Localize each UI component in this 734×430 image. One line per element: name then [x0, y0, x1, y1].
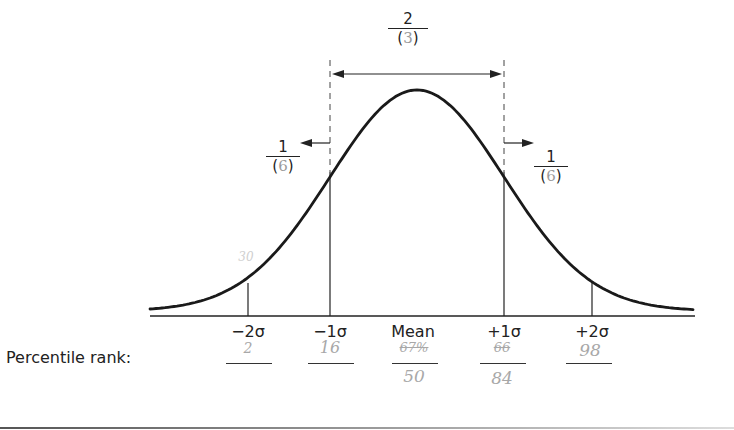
- percentile-blank-minus-1-sigma[interactable]: [308, 363, 354, 364]
- left-tail-fraction: 1 (6): [266, 138, 300, 175]
- percentile-blank-plus-2-sigma[interactable]: [566, 363, 612, 364]
- tick-label-minus-2-sigma: −2σ: [231, 322, 265, 341]
- tick-label-plus-1-sigma: +1σ: [487, 322, 521, 341]
- paren-close: ): [288, 157, 294, 175]
- percentile-answer-mean: 50: [403, 366, 425, 386]
- center-area-fraction: 2 (3): [388, 10, 428, 47]
- paren-close: ): [413, 29, 419, 47]
- handwritten-curve-note: 30: [238, 250, 253, 264]
- percentile-crossed-answer-mean: 67%: [400, 340, 429, 355]
- right-fraction-numerator: 1: [534, 148, 568, 167]
- arrowhead-right-icon: [522, 139, 534, 147]
- paren-close: ): [556, 167, 562, 185]
- arrowhead-left-icon: [332, 70, 344, 78]
- center-fraction-denominator: (3): [388, 29, 428, 47]
- percentile-blank-plus-1-sigma[interactable]: [480, 363, 526, 364]
- bottom-divider: [0, 427, 734, 429]
- arrowhead-right-icon: [490, 70, 502, 78]
- center-fraction-numerator: 2: [388, 10, 428, 29]
- right-tail-fraction: 1 (6): [534, 148, 568, 185]
- left-fraction-denominator: (6): [266, 157, 300, 175]
- percentile-answer-minus-2-sigma: 2: [244, 340, 253, 356]
- handwritten-answer: 3: [403, 29, 413, 47]
- percentile-blank-minus-2-sigma[interactable]: [226, 363, 272, 364]
- arrowhead-left-icon: [300, 139, 312, 147]
- handwritten-answer: 6: [546, 167, 556, 185]
- right-fraction-denominator: (6): [534, 167, 568, 185]
- tick-label-plus-2-sigma: +2σ: [575, 322, 609, 341]
- percentile-rank-label: Percentile rank:: [6, 348, 131, 367]
- percentile-answer-plus-1-sigma: 84: [491, 368, 513, 388]
- percentile-crossed-answer-plus-1-sigma: 66: [494, 340, 511, 355]
- percentile-answer-plus-2-sigma: 98: [579, 340, 601, 360]
- percentile-answer-minus-1-sigma: 16: [320, 338, 340, 357]
- bell-curve: [150, 90, 693, 310]
- tick-label-mean: Mean: [391, 322, 435, 341]
- percentile-blank-mean[interactable]: [392, 363, 438, 364]
- left-fraction-numerator: 1: [266, 138, 300, 157]
- handwritten-answer: 6: [278, 157, 288, 175]
